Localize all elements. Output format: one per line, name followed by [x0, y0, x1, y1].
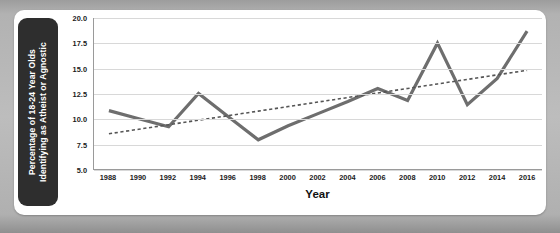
- x-axis-tick-label: 2004: [339, 173, 355, 182]
- gridline-y-2: [94, 119, 542, 120]
- gridline-y-4: [94, 69, 542, 70]
- y-axis-tick-labels: 5.07.510.012.515.017.520.0: [60, 18, 90, 170]
- y-axis-title-line-1: Percentage of 18-24 Year Olds: [27, 18, 38, 206]
- x-axis-tick-label: 1998: [249, 173, 265, 182]
- x-axis-tick-label: 2002: [309, 173, 325, 182]
- x-axis-tick-label: 1988: [100, 173, 116, 182]
- y-axis-tick-label: 7.5: [77, 140, 87, 149]
- page-background: Percentage of 18-24 Year Olds Identifyin…: [0, 0, 560, 233]
- gridline-y-3: [94, 94, 542, 95]
- x-axis-tick-label: 2008: [399, 173, 415, 182]
- gridline-y-6: [94, 18, 542, 19]
- y-axis-title-line-2: Identifying as Atheist or Agnostic: [38, 18, 49, 206]
- x-axis-tick-label: 2012: [459, 173, 475, 182]
- y-axis-title-block: Percentage of 18-24 Year Olds Identifyin…: [18, 18, 58, 206]
- y-axis-title-text: Percentage of 18-24 Year Olds Identifyin…: [27, 18, 49, 206]
- plot-area-wrapper: 5.07.510.012.515.017.520.0 1988199019921…: [60, 18, 540, 211]
- x-axis-tick-label: 2000: [279, 173, 295, 182]
- x-axis-tick-label: 2014: [489, 173, 505, 182]
- y-axis-tick-label: 5.0: [77, 166, 87, 175]
- chart-card: Percentage of 18-24 Year Olds Identifyin…: [14, 10, 546, 215]
- series-line-0: [109, 31, 527, 140]
- y-axis-tick-label: 12.5: [73, 90, 87, 99]
- y-axis-tick-label: 20.0: [73, 14, 87, 23]
- gridline-y-1: [94, 145, 542, 146]
- x-axis-tick-label: 1992: [160, 173, 176, 182]
- y-axis-tick-label: 17.5: [73, 39, 87, 48]
- x-axis-title: Year: [93, 188, 542, 200]
- y-axis-tick-label: 10.0: [73, 115, 87, 124]
- x-axis-tick-labels: 1988199019921994199619982000200220042006…: [93, 171, 542, 187]
- x-axis-tick-label: 1996: [219, 173, 235, 182]
- plot-area: [93, 18, 542, 170]
- x-axis-tick-label: 2010: [429, 173, 445, 182]
- x-axis-tick-label: 2006: [369, 173, 385, 182]
- x-axis-tick-label: 2016: [519, 173, 535, 182]
- x-axis-tick-label: 1994: [190, 173, 206, 182]
- y-axis-tick-label: 15.0: [73, 64, 87, 73]
- gridline-y-5: [94, 43, 542, 44]
- x-axis-tick-label: 1990: [130, 173, 146, 182]
